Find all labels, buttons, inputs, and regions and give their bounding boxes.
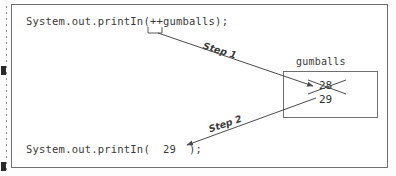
variable-name-label: gumballs bbox=[296, 56, 346, 67]
page-gutter-mark-bottom bbox=[1, 162, 6, 171]
page-gutter-mark-top bbox=[1, 66, 6, 75]
figure-page: System.out.printIn(++gumballs); System.o… bbox=[0, 0, 396, 176]
code-line-increment: System.out.printIn(++gumballs); bbox=[26, 15, 228, 27]
variable-new-value: 29 bbox=[319, 93, 332, 106]
page-gutter-dashed-line bbox=[6, 6, 7, 174]
code-line-print-result: System.out.printIn( 29 ); bbox=[26, 143, 202, 155]
variable-old-value: 28 bbox=[319, 79, 332, 92]
